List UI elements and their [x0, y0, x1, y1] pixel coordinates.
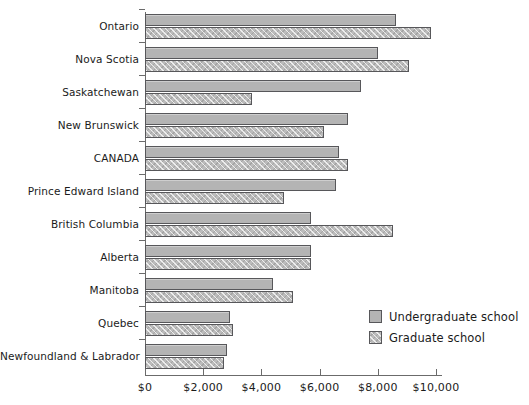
y-axis-tick [139, 273, 145, 274]
x-axis-tick-label: $4,000 [242, 381, 282, 394]
legend-item[interactable]: Graduate school [369, 327, 529, 348]
category-label: Newfoundland & Labrador [0, 350, 139, 362]
x-axis-tick [203, 369, 204, 376]
legend-item[interactable]: Undergraduate school [369, 306, 529, 327]
x-axis-tick [436, 369, 437, 376]
bar-under [145, 146, 339, 158]
bar-grad [145, 324, 233, 336]
bar-grad [145, 126, 324, 138]
y-axis-tick [139, 108, 145, 109]
x-axis-tick [145, 369, 146, 376]
category-label: Ontario [0, 20, 139, 32]
bar-under [145, 212, 311, 224]
y-axis-tick [139, 75, 145, 76]
x-axis-tick-label: $0 [138, 381, 152, 394]
chart-legend: Undergraduate schoolGraduate school [369, 306, 529, 348]
x-axis-tick-label: $2,000 [183, 381, 223, 394]
category-axis-labels: OntarioNova ScotiaSaskatchewanNew Brunsw… [0, 12, 139, 375]
bar-under [145, 311, 230, 323]
bar-grad [145, 357, 224, 369]
x-axis-line [145, 375, 442, 376]
bar-under [145, 113, 348, 125]
legend-label: Graduate school [389, 331, 485, 345]
legend-swatch-grad [369, 331, 382, 344]
y-axis-tick [139, 339, 145, 340]
x-axis-tick [378, 369, 379, 376]
bar-grad [145, 60, 409, 72]
category-label: British Columbia [0, 218, 139, 230]
legend-swatch-under [369, 310, 382, 323]
bar-under [145, 14, 396, 26]
y-axis-tick [139, 141, 145, 142]
y-axis-tick [139, 9, 145, 10]
legend-label: Undergraduate school [389, 310, 518, 324]
y-axis-tick [139, 306, 145, 307]
category-label: Prince Edward Island [0, 185, 139, 197]
category-label: CANADA [0, 152, 139, 164]
category-label: Saskatchewan [0, 86, 139, 98]
bar-under [145, 245, 311, 257]
bar-under [145, 47, 378, 59]
x-axis-tick-label: $10,000 [413, 381, 460, 394]
category-label: Nova Scotia [0, 53, 139, 65]
bar-under [145, 80, 361, 92]
category-label: New Brunswick [0, 119, 139, 131]
bar-grad [145, 159, 348, 171]
x-axis-tick-label: $8,000 [358, 381, 398, 394]
bar-under [145, 278, 273, 290]
y-axis-tick [139, 207, 145, 208]
bar-under [145, 179, 336, 191]
category-label: Manitoba [0, 284, 139, 296]
bar-grad [145, 291, 293, 303]
y-axis-tick [139, 240, 145, 241]
bar-under [145, 344, 227, 356]
y-axis-tick [139, 174, 145, 175]
x-axis-tick-label: $6,000 [300, 381, 340, 394]
bar-grad [145, 27, 431, 39]
x-axis-tick [261, 369, 262, 376]
category-label: Quebec [0, 317, 139, 329]
bar-grad [145, 93, 252, 105]
x-axis-tick [320, 369, 321, 376]
category-label: Alberta [0, 251, 139, 263]
bar-grad [145, 225, 393, 237]
bar-grad [145, 192, 284, 204]
y-axis-tick [139, 42, 145, 43]
bar-grad [145, 258, 311, 270]
bar-chart: OntarioNova ScotiaSaskatchewanNew Brunsw… [0, 0, 529, 405]
